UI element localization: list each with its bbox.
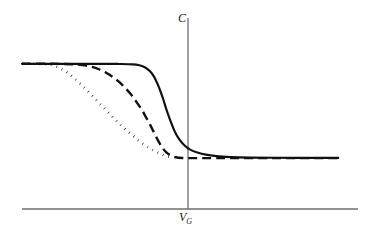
curve-solid-line (22, 64, 338, 158)
axes-group (22, 18, 358, 209)
y-axis-label: C (178, 12, 186, 24)
x-axis-label: VG (179, 211, 192, 226)
curve-dotted-line (22, 64, 172, 158)
cv-curve-figure: C VG (0, 0, 378, 238)
plot-area (0, 0, 378, 238)
x-axis-label-subscript: G (186, 217, 192, 226)
curves-group (22, 64, 338, 158)
curve-dashed-line (22, 64, 338, 158)
